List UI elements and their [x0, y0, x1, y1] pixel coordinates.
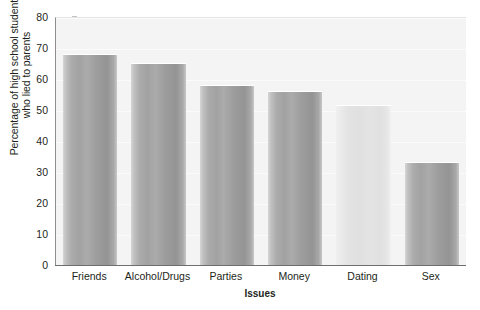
x-axis-line	[55, 265, 466, 266]
y-axis-title-line-1: Percentage of high school students	[8, 0, 20, 155]
y-tick-label: 80	[22, 11, 48, 23]
x-tick-label: Dating	[347, 270, 377, 282]
x-tick-label: Money	[278, 270, 310, 282]
y-tick-label: 60	[22, 73, 48, 85]
y-tick-label: 40	[22, 135, 48, 147]
x-axis-title: Issues	[55, 288, 465, 299]
bar	[336, 105, 391, 266]
bar	[200, 85, 255, 266]
y-tick-label: 70	[22, 42, 48, 54]
y-tick-label: 10	[22, 228, 48, 240]
bar-chart-figure: Percentage of high school students who l…	[0, 0, 480, 310]
bar	[405, 162, 460, 266]
bar	[63, 54, 118, 266]
y-tick-label: 50	[22, 104, 48, 116]
bars-layer	[56, 18, 466, 266]
plot-area	[55, 17, 466, 266]
y-axis-tick-labels: 01020304050607080	[22, 10, 48, 272]
bar	[131, 63, 186, 266]
x-tick-label: Parties	[209, 270, 242, 282]
y-tick-label: 20	[22, 197, 48, 209]
x-tick-label: Alcohol/Drugs	[125, 270, 190, 282]
x-tick-label: Friends	[72, 270, 107, 282]
y-tick-label: 30	[22, 166, 48, 178]
bar	[268, 91, 323, 266]
x-axis-tick-labels: FriendsAlcohol/DrugsPartiesMoneyDatingSe…	[0, 270, 480, 288]
x-tick-label: Sex	[422, 270, 440, 282]
